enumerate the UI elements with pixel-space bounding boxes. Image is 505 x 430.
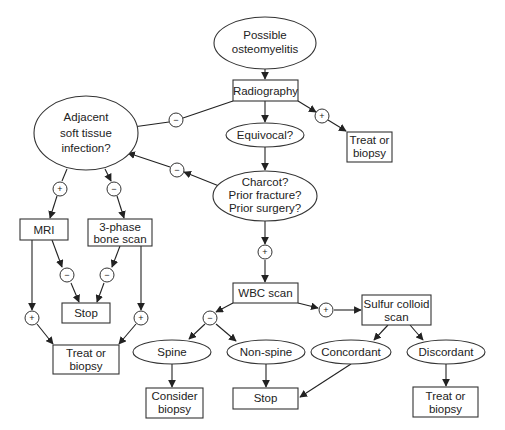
svg-text:Radiography: Radiography <box>233 85 298 97</box>
svg-text:Discordant: Discordant <box>419 346 475 358</box>
node-stop-left: Stop <box>62 303 110 323</box>
edge-plus-mri <box>50 196 57 218</box>
edge-plus-treat-top <box>328 120 346 131</box>
svg-text:WBC scan: WBC scan <box>238 287 292 299</box>
svg-text:Concordant: Concordant <box>321 346 381 358</box>
svg-text:soft tissue: soft tissue <box>60 127 112 139</box>
edge-wbc-minus <box>216 303 233 312</box>
node-possible-osteomyelitis: Possible osteomyelitis <box>214 17 316 69</box>
svg-text:Stop: Stop <box>74 307 98 319</box>
svg-text:−: − <box>104 270 109 280</box>
edge-minus-adjacent-2 <box>128 153 170 167</box>
edge-wbc-plus <box>298 303 318 308</box>
svg-text:Equivocal?: Equivocal? <box>237 129 293 141</box>
svg-text:Non-spine: Non-spine <box>240 346 292 358</box>
edge-concordant-stop <box>300 364 351 397</box>
svg-text:MRI: MRI <box>33 224 54 236</box>
edge-radiography-plus <box>298 101 316 112</box>
plus-sign-icon: + <box>25 311 39 325</box>
svg-text:+: + <box>323 305 328 315</box>
svg-text:−: − <box>174 165 179 175</box>
svg-text:+: + <box>29 313 34 323</box>
svg-text:osteomyelitis: osteomyelitis <box>232 43 299 55</box>
svg-text:Spine: Spine <box>157 346 186 358</box>
node-treat-or-biopsy-right: Treat or biopsy <box>413 387 478 417</box>
edge-minus-nonspine <box>216 324 236 341</box>
svg-text:Sulfur colloid: Sulfur colloid <box>364 298 430 310</box>
svg-text:Consider: Consider <box>151 390 197 402</box>
edge-minus-spine <box>189 324 205 339</box>
svg-text:Treat or: Treat or <box>350 134 390 146</box>
edge-adjacent-minus <box>105 169 111 181</box>
plus-sign-icon: + <box>258 245 272 259</box>
edge-minus-bonescan <box>117 196 124 218</box>
svg-text:3-phase: 3-phase <box>99 221 141 233</box>
node-stop-bottom: Stop <box>233 388 298 409</box>
node-concordant: Concordant <box>311 340 391 364</box>
node-mri: MRI <box>20 219 68 240</box>
svg-text:Treat or: Treat or <box>66 347 106 359</box>
node-consider-biopsy: Consider biopsy <box>146 388 203 418</box>
node-spine: Spine <box>133 340 211 364</box>
minus-sign-icon: − <box>100 268 114 282</box>
node-discordant: Discordant <box>407 340 485 364</box>
svg-text:Prior surgery?: Prior surgery? <box>229 202 301 214</box>
minus-sign-icon: − <box>107 182 121 196</box>
svg-text:−: − <box>111 184 116 194</box>
node-sulfur-colloid-scan: Sulfur colloid scan <box>362 295 431 325</box>
svg-text:Prior fracture?: Prior fracture? <box>229 189 302 201</box>
edge-minus-stop <box>71 283 79 302</box>
svg-text:Possible: Possible <box>243 29 286 41</box>
minus-sign-icon: − <box>170 163 184 177</box>
svg-text:biopsy: biopsy <box>69 360 102 372</box>
svg-text:infection?: infection? <box>61 142 110 154</box>
svg-text:Adjacent: Adjacent <box>64 111 110 123</box>
svg-text:−: − <box>207 313 212 323</box>
node-wbc-scan: WBC scan <box>233 283 298 303</box>
svg-text:+: + <box>262 247 267 257</box>
plus-sign-icon: + <box>134 311 148 325</box>
node-treat-or-biopsy-top: Treat or biopsy <box>347 132 392 162</box>
node-3-phase-bone-scan: 3-phase bone scan <box>88 219 152 246</box>
edge-plus-treat-left-2 <box>119 324 136 344</box>
node-treat-or-biopsy-left: Treat or biopsy <box>53 345 119 374</box>
plus-sign-icon: + <box>315 109 329 123</box>
node-non-spine: Non-spine <box>227 340 305 364</box>
edge-sulfur-discordant <box>410 325 423 340</box>
edge-bonescan-minus <box>112 246 120 267</box>
svg-text:biopsy: biopsy <box>429 403 462 415</box>
svg-text:biopsy: biopsy <box>158 403 191 415</box>
minus-sign-icon: − <box>203 311 217 325</box>
edge-mri-minus <box>52 240 62 267</box>
svg-text:Treat or: Treat or <box>426 390 466 402</box>
node-adjacent-soft-tissue-infection: Adjacent soft tissue infection? <box>34 96 138 170</box>
svg-text:scan: scan <box>384 311 408 323</box>
svg-text:biopsy: biopsy <box>353 147 386 159</box>
plus-sign-icon: + <box>53 182 67 196</box>
svg-text:−: − <box>173 115 178 125</box>
edge-plus-treat-left <box>37 324 53 344</box>
svg-text:Charcot?: Charcot? <box>242 176 289 188</box>
minus-sign-icon: − <box>60 268 74 282</box>
edge-charcot-minus <box>184 172 219 186</box>
minus-sign-icon: − <box>169 113 183 127</box>
plus-sign-icon: + <box>319 303 333 317</box>
edge-sulfur-concordant <box>374 325 388 340</box>
edge-radiography-minus <box>183 101 233 118</box>
svg-text:+: + <box>57 184 62 194</box>
node-equivocal: Equivocal? <box>226 123 304 147</box>
node-charcot-prior-fracture-surgery: Charcot? Prior fracture? Prior surgery? <box>213 171 317 221</box>
svg-text:bone scan: bone scan <box>93 233 146 245</box>
flowchart: − + − + − + − − + + − + Possible osteomy… <box>0 0 505 430</box>
edge-adjacent-plus <box>62 169 67 181</box>
svg-text:+: + <box>319 111 324 121</box>
svg-text:Stop: Stop <box>254 392 278 404</box>
node-radiography: Radiography <box>233 80 298 101</box>
edge-minus-stop-2 <box>97 283 104 302</box>
svg-text:+: + <box>138 313 143 323</box>
svg-text:−: − <box>64 270 69 280</box>
